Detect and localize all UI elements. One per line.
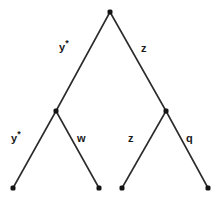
edge-label-right-left: z	[128, 133, 134, 144]
edge-label-left-right-base: w	[77, 132, 86, 144]
edge-left-internal-to-leaf-1	[13, 111, 56, 188]
edge-label-left-left-superscript: *	[17, 129, 21, 139]
node-left-internal	[54, 109, 59, 114]
edge-label-root-left: y*	[59, 42, 69, 53]
node-right-internal	[164, 109, 169, 114]
edge-right-internal-to-leaf-3	[122, 111, 166, 188]
node-leaf-3	[120, 186, 125, 191]
node-root	[108, 10, 113, 15]
edge-label-left-left: y*	[11, 133, 21, 144]
edge-root-to-right-internal	[110, 12, 166, 111]
tree-graphic	[0, 0, 221, 201]
edge-label-right-right-base: q	[186, 132, 193, 144]
tree-diagram: y* z y* w z q	[0, 0, 221, 201]
node-leaf-2	[97, 186, 102, 191]
edge-label-root-left-superscript: *	[65, 38, 69, 48]
edge-label-left-right: w	[77, 133, 86, 144]
node-leaf-4	[206, 186, 211, 191]
node-leaf-1	[11, 186, 16, 191]
edge-label-right-right: q	[186, 133, 193, 144]
edge-left-internal-to-leaf-2	[56, 111, 99, 188]
edge-label-right-left-base: z	[128, 132, 134, 144]
edge-right-internal-to-leaf-4	[166, 111, 208, 188]
edge-root-to-left-internal	[56, 12, 110, 111]
edge-label-root-right: z	[141, 43, 147, 54]
edge-label-root-right-base: z	[141, 42, 147, 54]
